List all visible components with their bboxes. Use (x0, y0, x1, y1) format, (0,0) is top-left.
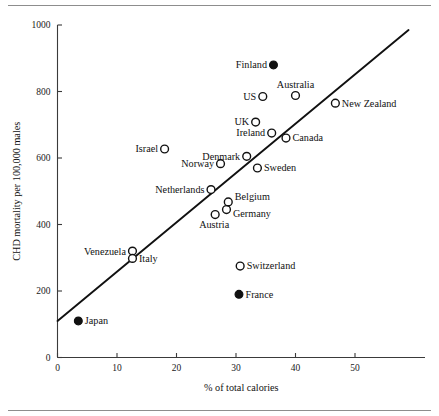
data-point-denmark (243, 152, 251, 160)
data-point-israel (161, 145, 169, 153)
data-point-germany (223, 206, 231, 214)
data-point-canada (282, 134, 290, 142)
data-points-group (74, 61, 339, 325)
data-point-new-zealand (331, 99, 339, 107)
data-label-venezuela: Venezuela (84, 246, 126, 257)
data-label-austria: Austria (199, 219, 229, 230)
x-tick-label-40: 40 (291, 363, 301, 373)
data-point-sweden (254, 164, 262, 172)
data-label-belgium: Belgium (235, 191, 270, 202)
y-axis-title: CHD mortality per 100,000 males (11, 122, 22, 261)
y-tick-label-600: 600 (36, 153, 51, 163)
data-point-japan (74, 317, 82, 325)
x-tick-label-50: 50 (350, 363, 360, 373)
regression-line (58, 30, 409, 321)
x-axis-ticks: 01020304050 (55, 353, 360, 373)
data-point-france (235, 290, 243, 298)
data-label-italy: Italy (139, 253, 159, 264)
chart-figure: 01020304050 02004006008001000 JapanVenez… (0, 0, 439, 416)
data-label-germany: Germany (233, 208, 272, 219)
data-point-labels-group: JapanVenezuelaItalyAustriaNetherlandsGer… (84, 59, 396, 326)
data-label-australia: Australia (277, 79, 315, 90)
data-label-us: US (243, 91, 256, 102)
data-label-israel: Israel (135, 143, 158, 154)
y-tick-label-1000: 1000 (32, 20, 51, 30)
data-label-ireland: Ireland (236, 127, 265, 138)
x-tick-label-20: 20 (172, 363, 182, 373)
data-point-ireland (268, 129, 276, 137)
data-label-switzerland: Switzerland (247, 260, 296, 271)
y-tick-label-800: 800 (36, 87, 51, 97)
data-label-finland: Finland (236, 59, 267, 70)
scatter-plot: 01020304050 02004006008001000 JapanVenez… (0, 0, 439, 416)
data-point-belgium (224, 198, 232, 206)
data-point-austria (211, 211, 219, 219)
y-tick-label-200: 200 (36, 286, 51, 296)
data-label-canada: Canada (292, 132, 323, 143)
data-point-australia (292, 92, 300, 100)
data-point-switzerland (236, 262, 244, 270)
data-point-us (259, 93, 267, 101)
data-point-italy (129, 255, 137, 263)
x-tick-label-10: 10 (112, 363, 122, 373)
data-label-japan: Japan (85, 315, 108, 326)
data-label-denmark: Denmark (202, 151, 241, 162)
data-label-france: France (245, 289, 273, 300)
data-label-sweden: Sweden (264, 162, 296, 173)
y-tick-label-400: 400 (36, 220, 51, 230)
x-tick-label-30: 30 (231, 363, 241, 373)
data-label-new-zealand: New Zealand (342, 98, 397, 109)
x-axis-title: % of total calories (204, 382, 278, 393)
data-label-uk: UK (234, 116, 249, 127)
data-point-uk (252, 118, 260, 126)
regression-line-group (58, 30, 409, 321)
data-point-netherlands (207, 186, 215, 194)
x-tick-label-0: 0 (55, 363, 60, 373)
data-point-finland (270, 61, 278, 69)
data-label-netherlands: Netherlands (155, 184, 204, 195)
y-tick-label-0: 0 (46, 353, 51, 363)
